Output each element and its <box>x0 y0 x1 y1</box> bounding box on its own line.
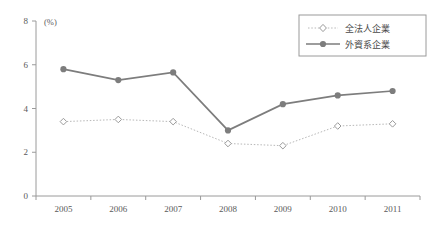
data-point-filled-circle <box>335 92 341 98</box>
y-tick-label: 0 <box>24 191 29 201</box>
x-tick-label: 2006 <box>109 204 128 214</box>
legend-label-all-corporations: 全法人企業 <box>345 23 390 34</box>
data-point-filled-circle <box>225 127 231 133</box>
data-point-filled-circle <box>389 88 395 94</box>
data-point-filled-circle <box>115 77 121 83</box>
x-tick-label: 2005 <box>54 204 73 214</box>
y-tick-label: 4 <box>24 104 29 114</box>
line-chart: 02468 (%) 2005200620072008200920102011 全… <box>0 0 436 235</box>
y-tick-label: 8 <box>24 16 29 26</box>
legend-label-foreign-affiliated: 外資系企業 <box>345 39 390 50</box>
x-tick-label: 2008 <box>219 204 238 214</box>
chart-legend: 全法人企業 外資系企業 <box>299 15 426 56</box>
x-tick-label: 2007 <box>164 204 183 214</box>
data-point-filled-circle <box>170 69 176 75</box>
x-tick-label: 2010 <box>329 204 348 214</box>
x-tick-label: 2009 <box>274 204 293 214</box>
y-tick-label: 6 <box>24 60 29 70</box>
x-tick-label: 2011 <box>384 204 402 214</box>
data-point-filled-circle <box>60 66 66 72</box>
filled-circle-icon <box>320 41 326 47</box>
data-point-filled-circle <box>280 101 286 107</box>
y-tick-label: 2 <box>24 147 29 157</box>
y-axis-unit-label: (%) <box>44 17 57 27</box>
legend-box <box>299 15 426 56</box>
